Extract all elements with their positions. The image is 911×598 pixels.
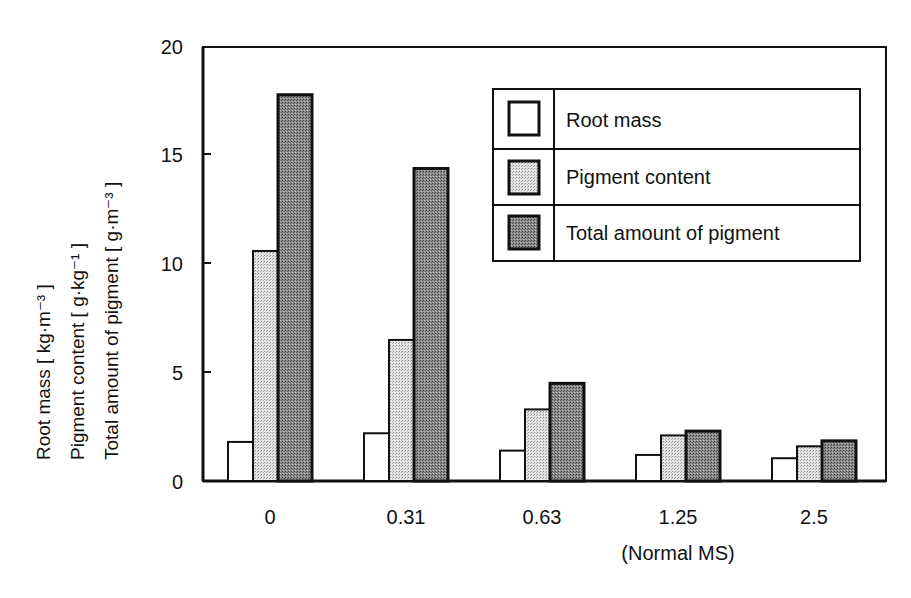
- y-tick-0: 0: [172, 471, 183, 493]
- bar-pigment-content-2.5: [797, 446, 822, 481]
- bar-pigment-content-0.63: [525, 409, 550, 481]
- bar-root-mass-0.31: [364, 433, 389, 481]
- x-tick-0.63: 0.63: [523, 506, 562, 528]
- bar-pigment-content-0.31: [389, 340, 414, 481]
- bar-chart: Root mass [ kg·m⁻³ ] Pigment content [ g…: [0, 0, 911, 598]
- x-tick-0.31: 0.31: [387, 506, 426, 528]
- legend-swatch-root-mass: [509, 102, 539, 135]
- legend: Root mass Pigment content Total amount o…: [493, 89, 860, 261]
- y-axis-title-line-2: Pigment content [ g·kg⁻¹ ]: [67, 243, 88, 460]
- bar-pigment-content-0: [253, 251, 278, 481]
- y-tick-15: 15: [161, 144, 183, 166]
- x-tick-2.5: 2.5: [800, 506, 828, 528]
- bar-root-mass-0: [228, 442, 253, 481]
- y-tick-labels: 0 5 10 15 20: [161, 36, 183, 493]
- legend-label-pigment-content: Pigment content: [566, 166, 711, 188]
- bar-total-pigment-0: [278, 95, 312, 481]
- legend-label-root-mass: Root mass: [566, 109, 662, 131]
- x-tick-labels: 0 0.31 0.63 1.25 2.5 (Normal MS): [264, 506, 827, 564]
- bar-total-pigment-0.63: [550, 383, 584, 481]
- legend-swatch-total-pigment: [509, 216, 539, 249]
- y-axis-title-line-1: Root mass [ kg·m⁻³ ]: [33, 284, 54, 460]
- x-tick-sublabel-normal-ms: (Normal MS): [621, 542, 734, 564]
- bar-root-mass-0.63: [500, 451, 525, 481]
- bar-root-mass-1.25: [636, 455, 661, 481]
- y-axis-title-line-3: Total amount of pigment [ g·m⁻³ ]: [101, 182, 122, 460]
- bar-total-pigment-2.5: [822, 441, 856, 481]
- x-tick-0: 0: [264, 506, 275, 528]
- y-tick-5: 5: [172, 362, 183, 384]
- x-tick-1.25: 1.25: [659, 506, 698, 528]
- bar-pigment-content-1.25: [661, 435, 686, 481]
- y-tick-10: 10: [161, 253, 183, 275]
- y-tick-20: 20: [161, 36, 183, 58]
- bar-total-pigment-1.25: [686, 431, 720, 481]
- bar-root-mass-2.5: [772, 458, 797, 481]
- legend-swatch-pigment-content: [509, 161, 539, 194]
- legend-label-total-pigment: Total amount of pigment: [566, 222, 780, 244]
- y-axis-title: Root mass [ kg·m⁻³ ] Pigment content [ g…: [33, 182, 122, 460]
- bar-total-pigment-0.31: [414, 169, 448, 481]
